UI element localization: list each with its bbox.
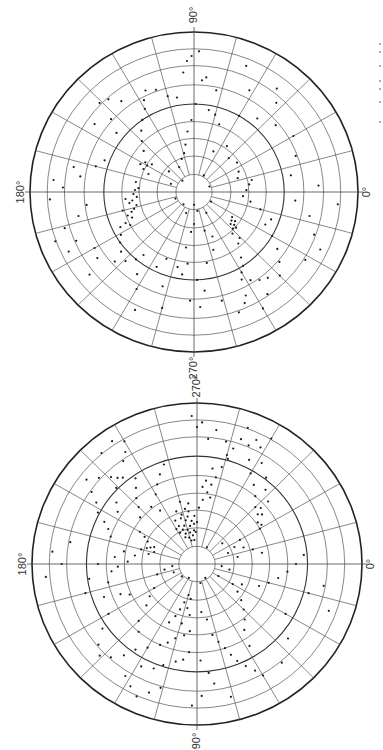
data-point xyxy=(181,273,183,275)
data-point xyxy=(125,222,127,224)
data-point xyxy=(187,510,189,512)
grid-spoke xyxy=(211,151,352,188)
data-point xyxy=(271,235,273,237)
data-point xyxy=(146,647,148,649)
data-point xyxy=(206,618,208,620)
data-point xyxy=(189,630,191,632)
data-point xyxy=(138,631,140,633)
grid-spoke xyxy=(210,577,314,678)
data-point xyxy=(127,214,129,216)
data-point xyxy=(99,102,101,104)
label-b-left: 180° xyxy=(16,553,28,576)
data-point xyxy=(254,506,256,508)
data-point xyxy=(217,575,219,577)
data-point xyxy=(232,583,234,585)
data-point xyxy=(281,662,283,664)
data-point xyxy=(275,124,277,126)
grid-spoke xyxy=(36,151,177,188)
data-point xyxy=(337,203,339,205)
data-point xyxy=(156,573,158,575)
data-point xyxy=(261,513,263,515)
data-point xyxy=(250,472,252,474)
data-point xyxy=(295,155,297,157)
data-point xyxy=(179,501,181,503)
polar-plot-b: 270° 0° 180° 90° xyxy=(16,375,376,750)
data-point xyxy=(200,611,202,613)
data-point xyxy=(237,177,239,179)
data-point xyxy=(128,202,130,204)
data-point xyxy=(73,166,75,168)
data-point xyxy=(238,171,240,173)
data-point xyxy=(230,696,232,698)
margin-dot xyxy=(379,51,381,53)
polar-grid-a xyxy=(25,27,363,357)
data-point xyxy=(52,179,54,181)
data-point xyxy=(162,285,164,287)
data-point xyxy=(123,654,125,656)
data-point xyxy=(131,199,133,201)
margin-dot xyxy=(379,65,381,67)
data-point xyxy=(262,307,264,309)
data-point xyxy=(275,102,277,104)
label-a-left: 180° xyxy=(14,181,26,204)
data-point xyxy=(248,89,250,91)
data-point xyxy=(117,566,119,568)
data-point xyxy=(196,521,198,523)
grid-spoke xyxy=(207,204,310,305)
data-point xyxy=(135,497,137,499)
data-point xyxy=(143,150,145,152)
data-point xyxy=(237,556,239,558)
data-point xyxy=(124,675,126,677)
data-point xyxy=(199,659,201,661)
data-point xyxy=(110,570,112,572)
data-point xyxy=(202,499,204,501)
data-point xyxy=(236,162,238,164)
data-point xyxy=(212,150,214,152)
data-point xyxy=(186,130,188,132)
data-point xyxy=(195,531,197,533)
data-point xyxy=(264,223,266,225)
data-point xyxy=(97,511,99,513)
data-point xyxy=(129,224,131,226)
data-point xyxy=(125,260,127,262)
data-point xyxy=(64,227,66,229)
data-point xyxy=(182,529,184,531)
data-point xyxy=(295,563,297,565)
data-point xyxy=(120,234,122,236)
margin-dot xyxy=(379,101,381,103)
data-point xyxy=(185,533,187,535)
data-point xyxy=(211,235,213,237)
data-point xyxy=(192,534,194,536)
data-point xyxy=(248,183,250,185)
data-point xyxy=(136,695,138,697)
grid-spoke xyxy=(154,581,192,719)
label-b-right: 0° xyxy=(364,559,376,570)
data-point xyxy=(132,193,134,195)
data-point xyxy=(234,220,236,222)
data-point xyxy=(259,208,261,210)
data-point xyxy=(190,539,192,541)
data-point xyxy=(122,460,124,462)
data-point xyxy=(193,515,195,517)
data-point xyxy=(308,215,310,217)
data-point xyxy=(97,644,99,646)
data-point xyxy=(201,486,203,488)
data-point xyxy=(182,203,184,205)
data-point xyxy=(230,223,232,225)
data-point xyxy=(99,655,101,657)
data-point xyxy=(119,593,121,595)
data-point xyxy=(51,551,53,553)
data-point xyxy=(191,520,193,522)
data-point xyxy=(155,89,157,91)
data-point xyxy=(196,279,198,281)
data-point xyxy=(225,441,227,443)
data-point xyxy=(236,591,238,593)
data-point xyxy=(86,204,88,206)
data-point xyxy=(247,427,249,429)
data-point xyxy=(175,510,177,512)
data-point xyxy=(205,76,207,78)
data-point xyxy=(221,565,223,567)
data-point xyxy=(139,516,141,518)
data-point xyxy=(243,629,245,631)
label-a-top: 90° xyxy=(187,7,199,24)
